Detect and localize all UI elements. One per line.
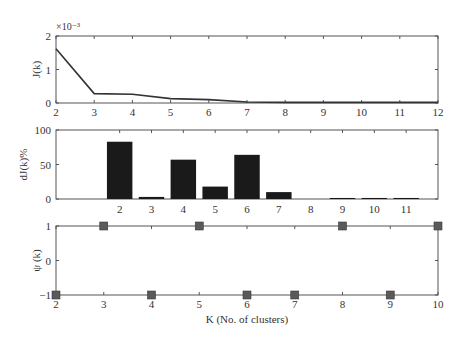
psi-marker [339, 222, 347, 230]
x-tick-label: 10 [356, 106, 368, 118]
x-tick-label: 8 [308, 203, 314, 215]
x-tick-label: 7 [292, 298, 298, 310]
figure: 23456789101112012×10⁻³J(k)23456789101105… [0, 0, 468, 342]
x-tick-label: 12 [433, 106, 444, 118]
y-tick-label: 1 [46, 220, 52, 232]
axes-box [56, 36, 438, 103]
psi-marker [434, 222, 442, 230]
x-tick-label: 2 [53, 106, 59, 118]
panel-psi-scatter-chart: 2345678910−101ψ (k)K (No. of clusters) [30, 220, 444, 326]
j-curve [56, 49, 438, 103]
x-tick-label: 9 [340, 203, 346, 215]
y-exponent-label: ×10⁻³ [56, 21, 80, 32]
x-tick-label: 2 [117, 203, 123, 215]
bar [266, 192, 291, 199]
x-axis-label: K (No. of clusters) [206, 313, 289, 326]
x-tick-label: 7 [276, 203, 282, 215]
bar [362, 198, 387, 199]
x-tick-label: 3 [149, 203, 155, 215]
x-tick-label: 11 [395, 106, 406, 118]
y-tick-label: 0 [46, 97, 52, 109]
psi-marker [52, 291, 60, 299]
x-tick-label: 8 [282, 106, 288, 118]
psi-marker [243, 291, 251, 299]
y-axis-label: ψ (k) [30, 249, 43, 272]
y-tick-label: 1 [46, 64, 52, 76]
bar [107, 142, 132, 199]
x-tick-label: 5 [168, 106, 174, 118]
x-tick-label: 6 [244, 203, 250, 215]
x-tick-label: 3 [91, 106, 97, 118]
y-tick-label: 0 [46, 193, 52, 205]
psi-marker [291, 291, 299, 299]
panel-dj-bar-chart: 234567891011050100dJ(k)% [17, 124, 438, 215]
x-tick-label: 4 [181, 203, 187, 215]
psi-marker [100, 222, 108, 230]
x-tick-label: 6 [244, 298, 250, 310]
y-tick-label: 50 [40, 159, 52, 171]
psi-marker [148, 291, 156, 299]
x-tick-label: 5 [197, 298, 203, 310]
y-tick-label: 0 [46, 255, 52, 267]
y-tick-label: 2 [46, 30, 52, 42]
x-tick-label: 3 [101, 298, 107, 310]
y-axis-label: dJ(k)% [17, 149, 30, 181]
x-tick-label: 2 [53, 298, 59, 310]
psi-marker [195, 222, 203, 230]
panel-j-line-chart: 23456789101112012×10⁻³J(k) [30, 21, 444, 118]
x-tick-label: 6 [206, 106, 212, 118]
axes-box [56, 226, 438, 295]
x-tick-label: 10 [433, 298, 445, 310]
x-tick-label: 7 [244, 106, 250, 118]
x-tick-label: 11 [401, 203, 412, 215]
bar [393, 198, 418, 199]
x-tick-label: 9 [321, 106, 327, 118]
bar [202, 187, 227, 199]
y-tick-label: 100 [35, 124, 52, 136]
y-tick-label: −1 [39, 289, 51, 301]
x-tick-label: 4 [130, 106, 136, 118]
x-tick-label: 8 [340, 298, 346, 310]
bar [139, 197, 164, 199]
x-tick-label: 9 [388, 298, 394, 310]
bar [171, 160, 196, 199]
bar [234, 155, 259, 199]
psi-marker [386, 291, 394, 299]
x-tick-label: 10 [369, 203, 381, 215]
y-axis-label: J(k) [30, 61, 43, 78]
x-tick-label: 5 [212, 203, 218, 215]
bar [330, 198, 355, 199]
x-tick-label: 4 [149, 298, 155, 310]
